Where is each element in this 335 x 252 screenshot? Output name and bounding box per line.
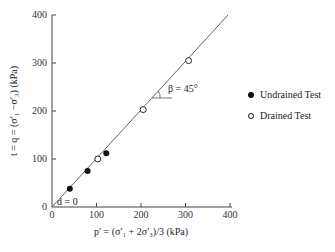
legend-undrained-label: Undrained Test (260, 89, 321, 100)
x-axis-label: p′ = (σ′₁ + 2σ′₃)/3 (kPa) (94, 226, 188, 238)
y-ticks (52, 15, 56, 159)
d-label: d = 0 (57, 196, 78, 207)
x-ticks (97, 203, 231, 207)
x-tick-200: 200 (134, 209, 149, 220)
x-tick-400: 400 (223, 209, 238, 220)
chart: 400 300 200 100 0 0 100 200 300 400 β = … (0, 0, 335, 252)
x-tick-100: 100 (89, 209, 104, 220)
legend-drained: Drained Test (248, 110, 311, 121)
fit-line (52, 15, 228, 207)
y-tick-300: 300 (32, 57, 47, 68)
undrained-points (67, 150, 110, 192)
x-tick-300: 300 (178, 209, 193, 220)
drained-points (95, 58, 192, 162)
x-tick-0: 0 (50, 209, 55, 220)
open-circle-icon (248, 113, 254, 119)
beta-arc (158, 91, 160, 98)
filled-circle-icon (248, 92, 254, 98)
y-tick-200: 200 (32, 105, 47, 116)
legend-undrained: Undrained Test (248, 89, 321, 100)
y-axis-label: t = q = (σ′₁ −σ′₃) (kPa) (8, 66, 20, 156)
beta-label: β = 45° (168, 83, 198, 94)
y-tick-100: 100 (32, 153, 47, 164)
y-tick-0: 0 (42, 201, 47, 212)
legend-drained-label: Drained Test (260, 110, 311, 121)
y-tick-400: 400 (32, 9, 47, 20)
